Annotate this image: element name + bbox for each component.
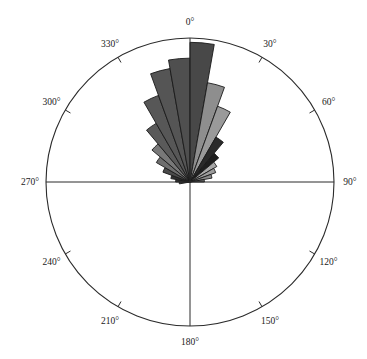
tick-label-30: 30° — [263, 39, 277, 49]
polar-rose-chart: 0°30°60°90°120°150°180°210°240°270°300°3… — [0, 0, 367, 359]
tick-label-60: 60° — [322, 97, 336, 107]
tick-label-120: 120° — [320, 257, 338, 267]
polar-rose-figure: 0°30°60°90°120°150°180°210°240°270°300°3… — [0, 0, 367, 359]
tick-label-210: 210° — [101, 316, 119, 326]
tick-label-90: 90° — [343, 177, 357, 187]
tick-label-240: 240° — [42, 257, 60, 267]
tick-label-330: 330° — [101, 39, 119, 49]
tick-label-150: 150° — [261, 316, 279, 326]
tick-label-300: 300° — [42, 97, 60, 107]
tick-label-0: 0° — [186, 17, 195, 27]
tick-label-180: 180° — [181, 337, 199, 347]
tick-label-270: 270° — [21, 177, 39, 187]
